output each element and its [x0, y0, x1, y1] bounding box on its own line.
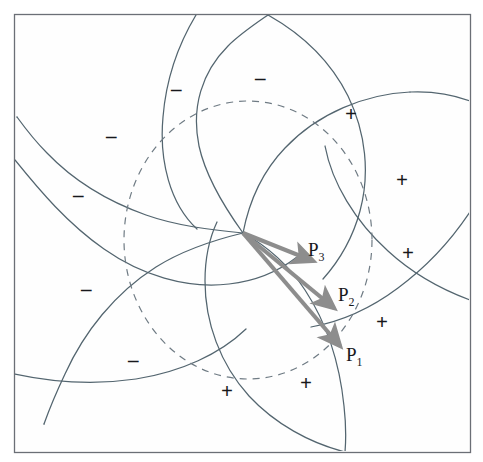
diagram-canvas: [0, 0, 483, 462]
minus-sign-5: –: [81, 279, 92, 300]
point-label-p1: P1: [346, 345, 363, 368]
point-label-p2: P2: [338, 285, 355, 308]
plus-sign-6: +: [221, 381, 233, 402]
point-label-p3-subscript: 3: [319, 250, 325, 264]
plus-sign-4: +: [376, 312, 388, 333]
point-label-p1-subscript: 1: [357, 355, 363, 369]
minus-sign-6: –: [128, 350, 139, 371]
point-label-p3-letter: P: [308, 239, 319, 260]
plus-sign-1: +: [345, 104, 357, 125]
point-label-p2-letter: P: [338, 284, 349, 305]
point-label-p3: P3: [308, 240, 325, 263]
point-label-p2-subscript: 2: [349, 295, 355, 309]
plus-sign-2: +: [396, 170, 408, 191]
minus-sign-4: –: [73, 185, 84, 206]
plus-sign-5: +: [300, 373, 312, 394]
minus-sign-2: –: [171, 79, 182, 100]
minus-sign-3: –: [106, 126, 117, 147]
minus-sign-1: –: [255, 68, 266, 89]
figure-container: P3 P2 P1 ++++++––––––: [0, 0, 483, 462]
point-label-p1-letter: P: [346, 344, 357, 365]
plus-sign-3: +: [402, 243, 414, 264]
